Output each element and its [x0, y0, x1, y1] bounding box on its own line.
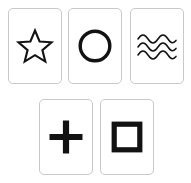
star-icon [17, 29, 53, 63]
square-icon [111, 121, 143, 153]
zener-card-set [0, 0, 191, 183]
circle-icon [78, 29, 112, 63]
card-circle[interactable] [68, 8, 122, 84]
waves-icon [137, 33, 177, 59]
card-cross[interactable] [39, 99, 93, 175]
cross-icon [48, 119, 84, 155]
card-waves[interactable] [130, 8, 184, 84]
card-square[interactable] [100, 99, 154, 175]
card-star[interactable] [8, 8, 62, 84]
